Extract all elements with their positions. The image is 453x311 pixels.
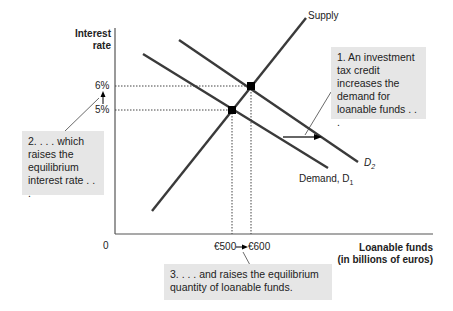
demand-d2-label: D2 bbox=[364, 157, 375, 173]
tick-5pct: 5% bbox=[95, 104, 109, 116]
note-raises-interest-rate: 2. . . . which raises the equilibrium in… bbox=[22, 131, 104, 195]
equilibrium-initial-point bbox=[228, 106, 236, 114]
x-axis-title: Loanable funds (in billions of euros) bbox=[320, 242, 433, 266]
note-raises-quantity: 3. . . . and raises the equilibrium quan… bbox=[164, 264, 332, 300]
y-axis-title-line1: Interest bbox=[55, 28, 111, 40]
tick-500: €500 bbox=[214, 241, 236, 253]
y-axis-title: Interest rate bbox=[55, 28, 111, 52]
x-axis-title-line1: Loanable funds bbox=[320, 242, 433, 254]
equilibrium-new-point bbox=[247, 82, 255, 90]
demand-d1-subscript: 1 bbox=[350, 179, 354, 186]
demand-d1-label: Demand, D1 bbox=[299, 173, 353, 189]
note-investment-tax-credit: 1. An investment tax credit increases th… bbox=[331, 47, 426, 119]
leader-note1 bbox=[305, 92, 331, 135]
tick-600: €600 bbox=[248, 241, 270, 253]
leader-note2 bbox=[65, 98, 99, 131]
supply-curve bbox=[152, 18, 306, 211]
y-axis-title-line2: rate bbox=[55, 40, 111, 52]
demand-d1-prefix: Demand, D bbox=[299, 173, 350, 184]
demand-d2-subscript: 2 bbox=[371, 163, 375, 170]
x-axis-title-line2: (in billions of euros) bbox=[320, 254, 433, 266]
supply-label: Supply bbox=[308, 10, 339, 22]
origin-label: 0 bbox=[103, 240, 109, 252]
tick-6pct: 6% bbox=[95, 80, 109, 92]
